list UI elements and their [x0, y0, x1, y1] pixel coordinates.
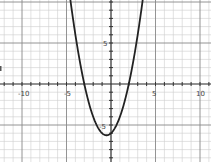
major-grid	[0, 0, 211, 162]
x-tick-label-neg10: -10	[18, 90, 29, 98]
x-tick-label-5: 5	[152, 90, 156, 98]
y-tick-label-5: 5	[103, 40, 107, 48]
minor-grid	[0, 0, 211, 162]
x-tick-label-neg5: -5	[64, 90, 71, 98]
left-edge-mark	[0, 66, 2, 71]
function-graph: -10 -5 5 10 5 -5	[0, 0, 211, 162]
axes	[0, 0, 211, 162]
y-tick-label-neg5: -5	[99, 123, 106, 131]
x-tick-label-10: 10	[196, 90, 205, 98]
